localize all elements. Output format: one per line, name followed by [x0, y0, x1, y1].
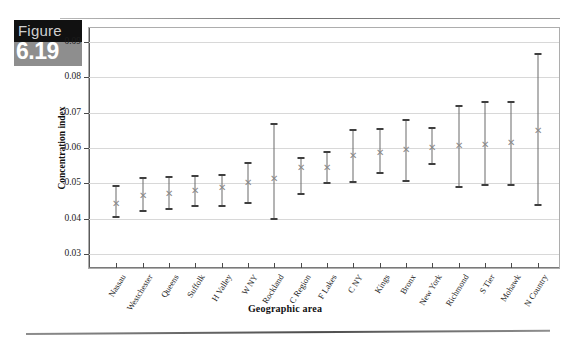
error-bar-cap-upper: [297, 157, 304, 159]
error-bar-cap-lower: [218, 205, 225, 207]
gridline: [89, 77, 559, 78]
y-axis-tick: [84, 77, 89, 78]
y-axis-tick: [84, 183, 89, 184]
error-bar-cap-upper: [218, 174, 225, 176]
x-axis-tick: [274, 263, 275, 268]
y-axis-title: Concentration index: [57, 106, 67, 189]
gridline: [89, 219, 559, 220]
data-point-marker: ✕: [112, 198, 121, 207]
error-bar-cap-lower: [403, 180, 410, 182]
error-bar-cap-upper: [482, 101, 489, 103]
error-bar-cap-upper: [534, 53, 541, 55]
error-bar-cap-lower: [165, 208, 172, 210]
x-axis-category-label: Kings: [373, 273, 391, 295]
x-axis-tick: [432, 263, 433, 268]
y-axis-tick: [84, 254, 89, 255]
x-axis-category-label: Nassau: [107, 273, 127, 298]
x-axis-category-label: S Tier: [478, 273, 496, 295]
figure-page: Figure 6.19 0.030.040.050.060.070.080.09…: [0, 0, 570, 348]
error-bar-cap-lower: [429, 163, 436, 165]
x-axis-category-label: W NY: [240, 273, 259, 296]
error-bar-cap-lower: [376, 172, 383, 174]
plot-frame: 0.030.040.050.060.070.080.09✕Nassau✕West…: [88, 27, 560, 269]
x-axis-category-label: Bronx: [399, 273, 417, 296]
bottom-rule: [26, 330, 550, 335]
x-axis-tick: [143, 263, 144, 268]
x-axis-tick: [511, 263, 512, 268]
x-axis-category-label: Queens: [159, 273, 180, 299]
plot-area: 0.030.040.050.060.070.080.09✕Nassau✕West…: [89, 28, 559, 268]
x-axis-category-label: Suffolk: [186, 273, 207, 299]
gridline: [89, 254, 559, 255]
error-bar-cap-upper: [271, 123, 278, 125]
y-axis-tick: [84, 148, 89, 149]
x-axis-line: [89, 267, 559, 268]
x-axis-tick: [301, 263, 302, 268]
error-bar-cap-upper: [244, 162, 251, 164]
x-axis-category-label: New York: [418, 273, 443, 307]
x-axis-tick: [538, 263, 539, 268]
gridline: [89, 42, 559, 43]
y-axis-tick-label: 0.03: [64, 249, 81, 259]
error-bar-cap-upper: [350, 129, 357, 131]
error-bar-cap-lower: [297, 193, 304, 195]
data-point-marker: ✕: [323, 163, 332, 172]
x-axis-category-label: C Region: [287, 273, 311, 305]
y-axis-tick: [84, 42, 89, 43]
data-point-marker: ✕: [217, 182, 226, 191]
error-bar-cap-upper: [165, 176, 172, 178]
error-bar-cap-upper: [113, 185, 120, 187]
x-axis-category-label: Rockland: [261, 273, 285, 305]
data-point-marker: ✕: [243, 178, 252, 187]
x-axis-category-label: Mohawk: [499, 273, 522, 303]
x-axis-tick: [406, 263, 407, 268]
error-bar-cap-lower: [113, 216, 120, 218]
data-point-marker: ✕: [191, 186, 200, 195]
x-axis-tick: [169, 263, 170, 268]
x-axis-title: Geographic area: [0, 303, 570, 314]
error-bar-cap-upper: [192, 175, 199, 177]
error-bar-cap-upper: [403, 119, 410, 121]
x-axis-tick: [116, 263, 117, 268]
error-bar-cap-lower: [455, 186, 462, 188]
error-bar-cap-lower: [192, 205, 199, 207]
x-axis-category-label: C NY: [347, 273, 365, 295]
error-bar-cap-upper: [455, 105, 462, 107]
error-bar-cap-lower: [482, 184, 489, 186]
data-point-marker: ✕: [296, 163, 305, 172]
data-point-marker: ✕: [164, 189, 173, 198]
x-axis-tick: [195, 263, 196, 268]
data-point-marker: ✕: [349, 151, 358, 160]
error-bar-cap-lower: [534, 204, 541, 206]
gridline: [89, 113, 559, 114]
data-point-marker: ✕: [402, 145, 411, 154]
x-axis-tick: [327, 263, 328, 268]
x-axis-tick: [353, 263, 354, 268]
y-axis-tick: [84, 113, 89, 114]
data-point-marker: ✕: [375, 147, 384, 156]
data-point-marker: ✕: [533, 125, 542, 134]
x-axis-category-label: F Lakes: [317, 273, 339, 301]
error-bar-cap-upper: [429, 127, 436, 129]
x-axis-tick: [222, 263, 223, 268]
y-axis-tick-label: 0.08: [64, 73, 81, 83]
x-axis-tick: [485, 263, 486, 268]
x-axis-tick: [380, 263, 381, 268]
x-axis-tick: [459, 263, 460, 268]
error-bar-cap-lower: [271, 218, 278, 220]
x-axis-category-label: H Valley: [210, 273, 233, 303]
error-bar-cap-upper: [508, 101, 515, 103]
y-axis-tick-label: 0.09: [64, 37, 81, 47]
data-point-marker: ✕: [507, 137, 516, 146]
data-point-marker: ✕: [138, 190, 147, 199]
error-bar-cap-lower: [508, 184, 515, 186]
error-bar: [274, 124, 275, 218]
y-axis-tick-label: 0.04: [64, 214, 81, 224]
x-axis-tick: [248, 263, 249, 268]
error-bar-cap-lower: [244, 202, 251, 204]
error-bar-cap-lower: [139, 210, 146, 212]
y-axis-tick: [84, 219, 89, 220]
data-point-marker: ✕: [270, 174, 279, 183]
top-rule: [60, 18, 560, 19]
data-point-marker: ✕: [428, 143, 437, 152]
